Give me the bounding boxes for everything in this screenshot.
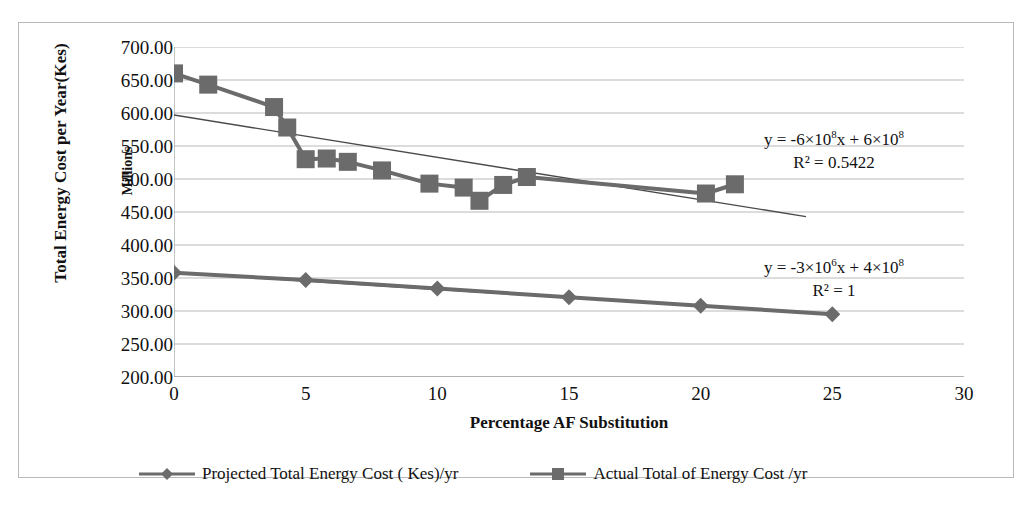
trendline-equation-actual: y = -6×108x + 6×108 R² = 0.5422 <box>709 123 959 174</box>
data-point-marker <box>373 161 391 179</box>
data-point-marker <box>174 64 183 82</box>
equation-text-projected: y = -3×106x + 4×108 <box>709 251 959 279</box>
x-tick-label: 15 <box>560 383 579 405</box>
equation-text-actual: y = -6×108x + 6×108 <box>709 123 959 151</box>
x-tick-label: 0 <box>169 383 179 405</box>
x-tick-label: 10 <box>428 383 447 405</box>
x-axis-title: Percentage AF Substitution <box>174 413 964 433</box>
y-tick-label: 350.00 <box>81 269 173 288</box>
legend-label-projected: Projected Total Energy Cost ( Kes)/yr <box>202 464 458 484</box>
y-tick-label: 250.00 <box>81 335 173 354</box>
legend-label-actual: Actual Total of Energy Cost /yr <box>593 464 807 484</box>
data-point-marker <box>494 176 512 194</box>
x-tick-label: 30 <box>955 383 974 405</box>
data-point-marker <box>429 281 445 297</box>
y-tick-label: 650.00 <box>81 71 173 90</box>
data-point-marker <box>470 192 488 210</box>
y-tick-label: 400.00 <box>81 236 173 255</box>
data-point-marker <box>455 179 473 197</box>
data-point-marker <box>824 306 840 322</box>
diamond-marker-icon <box>139 466 195 482</box>
trendline-equation-projected: y = -3×106x + 4×108 R² = 1 <box>709 251 959 302</box>
legend-item-actual[interactable]: Actual Total of Energy Cost /yr <box>530 464 807 484</box>
plot-svg <box>174 47 964 377</box>
data-point-marker <box>278 119 296 137</box>
y-tick-label: 200.00 <box>81 368 173 387</box>
y-tick-label: 550.00 <box>81 137 173 156</box>
data-point-marker <box>420 175 438 193</box>
data-point-marker <box>199 76 217 94</box>
y-tick-label: 700.00 <box>81 38 173 57</box>
y-tick-label: 600.00 <box>81 104 173 123</box>
r-squared-projected: R² = 1 <box>709 279 959 302</box>
x-tick-label: 25 <box>823 383 842 405</box>
data-point-marker <box>297 150 315 168</box>
y-tick-label: 450.00 <box>81 203 173 222</box>
data-point-marker <box>339 153 357 171</box>
x-tick-label: 20 <box>691 383 710 405</box>
y-tick-label: 500.00 <box>81 170 173 189</box>
data-point-marker <box>561 289 577 305</box>
y-axis-tick-labels: 700.00 650.00 600.00 550.00 500.00 450.0… <box>55 47 173 377</box>
figure-frame: Total Energy Cost per Year(Kes) Millions… <box>18 22 1014 478</box>
data-point-marker <box>726 175 744 193</box>
chart-legend: Projected Total Energy Cost ( Kes)/yr Ac… <box>139 457 919 491</box>
data-point-marker <box>298 272 314 288</box>
legend-item-projected[interactable]: Projected Total Energy Cost ( Kes)/yr <box>139 464 458 484</box>
y-tick-label: 300.00 <box>81 302 173 321</box>
data-point-marker <box>318 150 336 168</box>
data-point-marker <box>697 185 715 203</box>
series-line <box>174 73 735 200</box>
square-marker-icon <box>530 466 586 482</box>
data-point-marker <box>265 98 283 116</box>
r-squared-actual: R² = 0.5422 <box>709 151 959 174</box>
data-point-marker <box>518 168 536 186</box>
plot-area <box>174 47 964 377</box>
x-tick-label: 5 <box>301 383 311 405</box>
chart-page: Total Energy Cost per Year(Kes) Millions… <box>0 0 1032 523</box>
x-axis-tick-labels: 051015202530 <box>174 383 964 409</box>
